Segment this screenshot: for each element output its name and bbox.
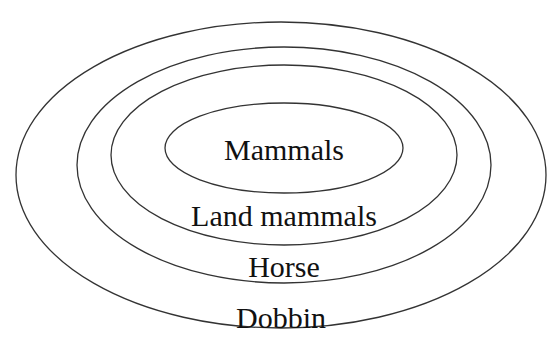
label-horse: Horse — [248, 252, 320, 282]
label-dobbin: Dobbin — [236, 303, 326, 333]
label-land-mammals: Land mammals — [191, 201, 377, 231]
label-mammals: Mammals — [224, 135, 344, 165]
nested-ellipse-diagram — [0, 0, 560, 344]
